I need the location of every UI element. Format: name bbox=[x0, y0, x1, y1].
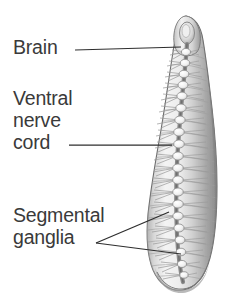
label-vnc-line-1: Ventral bbox=[13, 87, 72, 109]
label-sg-line-2: ganglia bbox=[13, 226, 75, 248]
label-brain: Brain bbox=[13, 36, 58, 58]
label-vnc-line-2: nerve bbox=[13, 109, 61, 131]
label-ventral-nerve-cord: Ventral nerve cord bbox=[13, 87, 72, 153]
brain-structure bbox=[180, 22, 195, 44]
label-segmental-ganglia: Segmental ganglia bbox=[13, 204, 104, 248]
label-vnc-line-3: cord bbox=[13, 131, 50, 153]
diagram-canvas: Brain Ventral nerve cord Segmental gangl… bbox=[0, 0, 236, 308]
label-sg-line-1: Segmental bbox=[13, 204, 104, 226]
